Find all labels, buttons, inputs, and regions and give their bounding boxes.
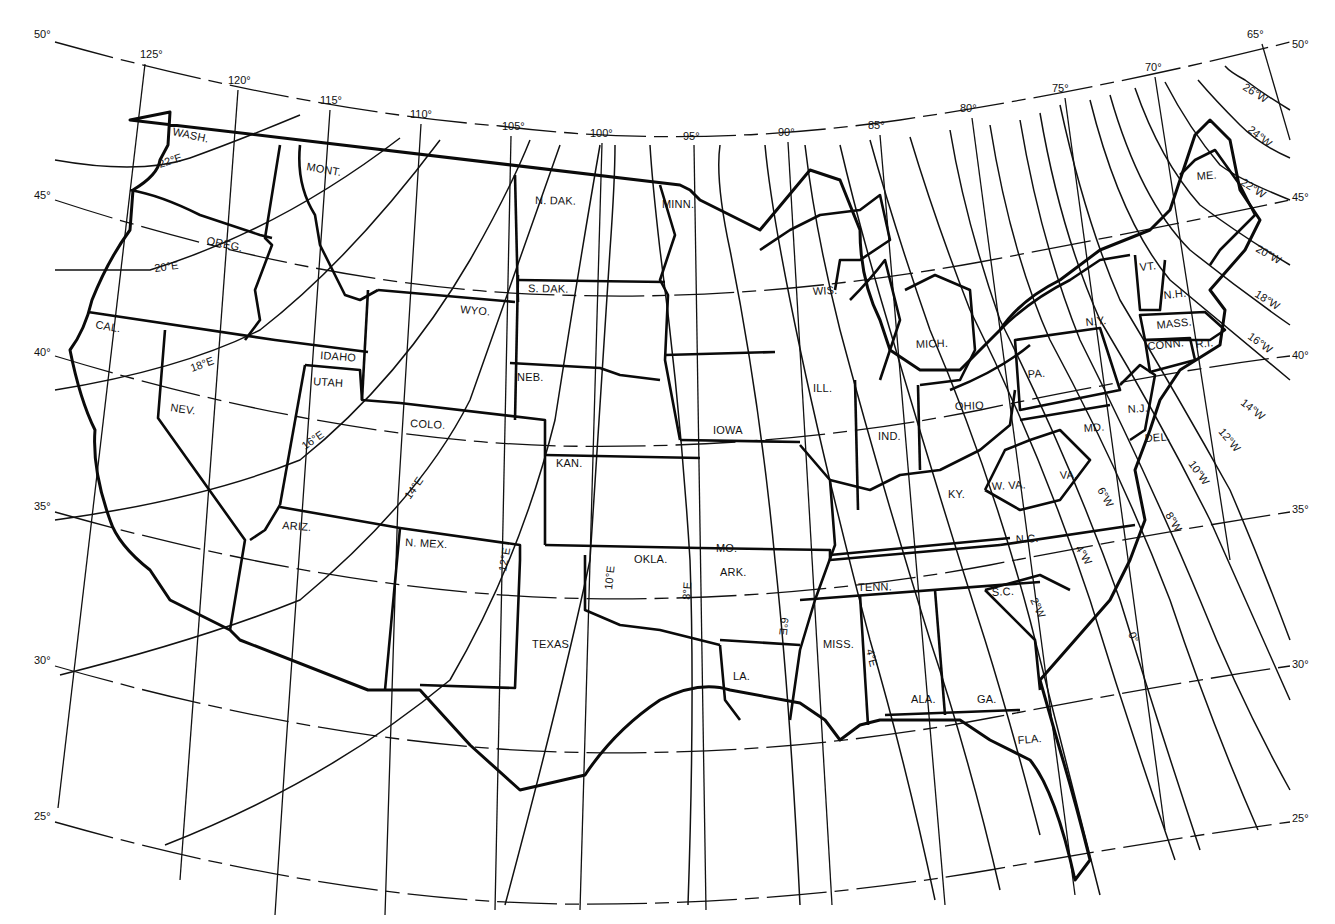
isogonic-14E [60,145,560,675]
lat-label-left-30: 30° [34,654,51,666]
parallel-50 [55,42,1290,137]
lon-label-75: 75° [1052,82,1069,94]
border-id-wa [245,145,280,340]
lon-label-115: 115° [320,94,342,106]
iso-label-16E: 16°E [299,428,326,452]
state-label-fla: FLA. [1017,732,1042,746]
lon-label-70: 70° [1145,61,1162,73]
iso-label-20E: 20°E [154,259,179,274]
iso-label-4E: 4°E [864,648,880,668]
parallel-35 [55,512,1290,599]
lat-label-left-40: 40° [34,346,51,358]
state-label-ohio: OHIO [955,399,985,412]
border-ark-la [720,640,800,645]
iso-label-8E: 8°E [680,581,693,600]
lon-label-100: 100° [590,127,613,139]
state-label-cal: CAL. [95,318,122,334]
lat-label-left-50: 50° [34,28,51,40]
iso-label-6E: 6°E [777,617,791,636]
state-label-n-dak: N. DAK. [535,194,576,207]
state-label-mich: MICH. [916,337,949,350]
border-il-in [855,380,858,510]
state-label-pa: PA. [1027,367,1045,380]
iso-label-6W: 6°W [1095,485,1116,510]
meridian-90 [788,142,832,905]
meridian-85 [880,135,945,905]
border-mt-wy [378,290,515,302]
border-wy-sd-ne [515,275,518,420]
declination-map: 50° 45° 40° 35° 30° 25° 50° 45° 40° 35° … [0,0,1335,924]
state-label-va: VA. [1059,468,1077,481]
state-label-minn: MINN. [662,198,694,210]
state-label-ny: N.Y. [1085,314,1107,328]
border-ia-mo [680,440,800,442]
iso-label-24W: 24°W [1246,123,1275,149]
state-label-del: DEL. [1144,430,1170,444]
lat-label-left-25: 25° [34,810,51,822]
state-label-kan: KAN. [556,457,582,469]
state-label-texas: TEXAS [532,638,569,650]
iso-label-26W: 26°W [1241,81,1271,106]
border-me [1180,150,1255,265]
isogonic-8E [650,145,692,905]
meridian-75 [1065,98,1165,830]
lat-label-right-45: 45° [1292,191,1309,203]
state-label-tenn: TENN. [858,580,892,593]
isogonic-2W [870,140,1100,895]
state-label-mass: MASS. [1156,315,1192,331]
lon-label-125: 125° [140,48,163,60]
state-label-me: ME. [1196,169,1217,182]
iso-label-12W: 12°W [1216,426,1243,455]
iso-label-20W: 20°W [1254,242,1284,266]
state-label-wyo: WYO. [460,303,491,318]
lon-label-105: 105° [502,120,525,132]
parallel-25 [55,822,1290,904]
state-label-sc: S.C. [991,585,1014,598]
state-label-nh: N.H. [1163,287,1187,301]
lon-label-85: 85° [868,119,885,131]
isogonic-2E [805,145,1000,890]
state-label-okla: OKLA. [634,553,667,565]
state-label-miss: MISS. [823,638,854,650]
lon-label-90: 90° [778,126,795,138]
lat-label-right-30: 30° [1292,658,1309,670]
lon-label-110: 110° [410,108,432,120]
iso-label-10W: 10°W [1186,458,1212,487]
state-label-ga: GA. [977,693,997,705]
border-mn-ia [665,352,775,355]
border-in-oh [918,385,920,470]
iso-label-2W: 2°W [1028,596,1048,621]
lon-label-120: 120° [228,74,251,86]
lon-label-95: 95° [683,130,700,142]
isogonic-6E [719,145,800,905]
state-label-nj: N.J. [1127,402,1148,415]
lat-label-right-35: 35° [1292,503,1309,515]
state-label-neb: NEB. [517,371,543,383]
state-label-vt: VT. [1139,259,1157,273]
state-borders [70,112,1260,880]
border-nm-tx [420,560,520,688]
border-nv-ut [280,365,305,505]
meridian-80 [972,118,1075,895]
meridian-100 [580,143,602,910]
state-label-md: MD. [1083,421,1105,434]
state-label-wis: WIS. [812,284,837,297]
state-label-nc: N.C. [1015,532,1038,545]
state-label-mo: MO. [716,542,737,554]
iso-label-22E: 22°E [157,151,184,170]
border-la-tx [720,645,740,720]
isogonic-16E [55,140,530,520]
iso-label-14W: 14°W [1239,396,1268,422]
iso-label-16W: 16°W [1246,330,1275,356]
state-label-ariz: ARIZ. [282,519,312,533]
state-label-la: LA. [733,670,750,682]
state-label-ky: KY. [948,488,965,500]
border-ny-lakes [1000,255,1130,330]
state-label-ind: IND. [878,430,901,442]
meridian-105 [495,136,511,910]
lat-label-right-40: 40° [1292,349,1309,361]
isogonic-4E [765,145,935,900]
state-label-n-mex: N. MEX. [405,536,448,550]
state-label-ill: ILL. [813,382,832,394]
state-label-nev: NEV. [170,401,197,416]
